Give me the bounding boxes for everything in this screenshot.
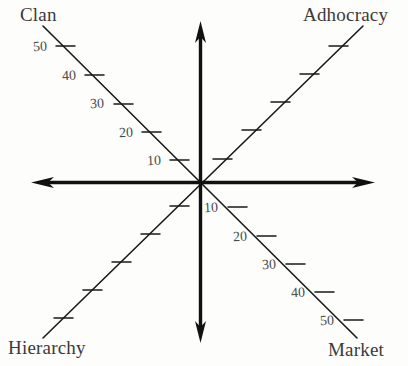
market-tick-marks xyxy=(228,207,363,320)
market-tick-label-40: 40 xyxy=(291,286,306,301)
market-tick-label-10: 10 xyxy=(204,201,219,216)
clan-tick-label-50: 50 xyxy=(33,40,48,55)
quadrant-label-clan: Clan xyxy=(20,5,57,24)
clan-tick-label-10: 10 xyxy=(147,154,162,169)
market-tick-label-20: 20 xyxy=(233,230,248,245)
market-tick-label-50: 50 xyxy=(320,314,335,329)
quadrant-label-hierarchy: Hierarchy xyxy=(8,338,86,357)
axes-diagram xyxy=(0,0,408,366)
quadrant-label-market: Market xyxy=(328,340,384,359)
hierarchy-tick-marks xyxy=(54,206,189,318)
market-tick-label-30: 30 xyxy=(262,258,277,273)
clan-tick-marks xyxy=(56,46,189,160)
diagram-canvas: Clan Adhocracy Hierarchy Market 50 40 30… xyxy=(0,0,408,366)
clan-tick-label-30: 30 xyxy=(90,97,105,112)
quadrant-label-adhocracy: Adhocracy xyxy=(303,5,388,24)
adhocracy-tick-marks xyxy=(213,46,348,159)
clan-tick-label-40: 40 xyxy=(62,69,77,84)
clan-tick-label-20: 20 xyxy=(119,126,134,141)
